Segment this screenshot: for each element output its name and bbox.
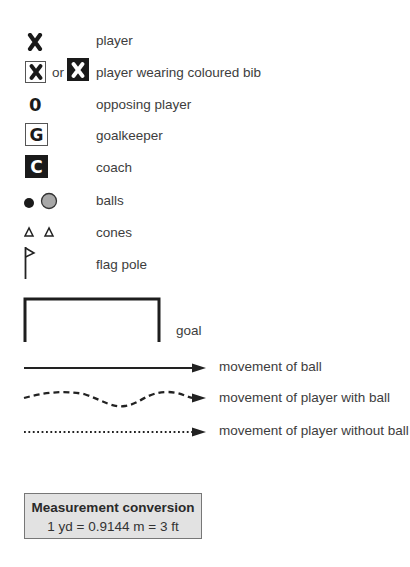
measurement-title: Measurement conversion xyxy=(25,500,201,515)
label-goal: goal xyxy=(176,323,202,338)
label-player-with-ball: movement of player with ball xyxy=(219,390,390,405)
flag-pole-icon xyxy=(22,246,38,280)
label-opposing: opposing player xyxy=(96,97,191,112)
label-player: player xyxy=(96,33,133,48)
dashed-wavy-arrow-icon xyxy=(22,386,208,412)
label-coach: coach xyxy=(96,160,132,175)
zero-icon: 0 xyxy=(29,94,42,115)
measurement-conversion-box: Measurement conversion 1 yd = 0.9144 m =… xyxy=(24,493,202,539)
goal-icon xyxy=(22,296,164,344)
measurement-value: 1 yd = 0.9144 m = 3 ft xyxy=(25,519,201,534)
cross-x-icon xyxy=(27,33,43,51)
or-connector: or xyxy=(52,65,64,80)
label-cones: cones xyxy=(96,225,132,240)
boxed-x-icon xyxy=(25,61,46,83)
filled-x-icon xyxy=(67,58,89,81)
label-flag-pole: flag pole xyxy=(96,257,147,272)
label-goalkeeper: goalkeeper xyxy=(96,128,163,143)
boxed-g-icon: G xyxy=(25,123,48,146)
label-balls: balls xyxy=(96,193,124,208)
label-ball-movement: movement of ball xyxy=(219,359,322,374)
dotted-arrow-icon xyxy=(22,424,208,440)
filled-c-icon: C xyxy=(25,155,48,178)
label-player-without-ball: movement of player without ball xyxy=(219,423,409,438)
balls-icon xyxy=(22,192,60,212)
label-bib: player wearing coloured bib xyxy=(96,65,261,80)
solid-arrow-icon xyxy=(22,360,208,376)
cones-icon xyxy=(24,226,58,238)
